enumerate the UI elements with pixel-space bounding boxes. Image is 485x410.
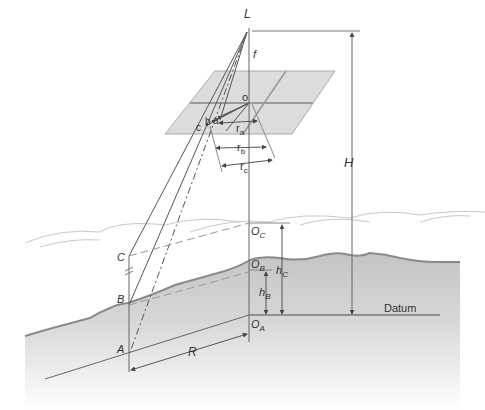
label-B: B bbox=[117, 293, 124, 305]
terrain-surface bbox=[25, 253, 460, 410]
label-a: a bbox=[213, 115, 219, 126]
label-rb: rb bbox=[237, 141, 246, 156]
label-c: c bbox=[196, 122, 201, 133]
label-L: L bbox=[244, 7, 251, 21]
label-datum: Datum bbox=[384, 302, 416, 314]
diagram-canvas: L f o b a c ra rb rc H C B A OC OB OA hB… bbox=[0, 0, 485, 410]
label-H: H bbox=[344, 155, 354, 170]
c-to-oc-dashed bbox=[129, 223, 249, 256]
relief-displacement-diagram: L f o b a c ra rb rc H C B A OC OB OA hB… bbox=[0, 0, 485, 410]
label-R: R bbox=[188, 345, 197, 359]
label-A: A bbox=[116, 343, 124, 355]
photo-plane bbox=[165, 71, 335, 134]
label-rc: rc bbox=[240, 160, 248, 175]
label-o: o bbox=[242, 91, 248, 103]
label-f: f bbox=[253, 48, 257, 60]
label-C: C bbox=[117, 251, 125, 263]
label-b: b bbox=[205, 116, 211, 127]
label-OC: OC bbox=[251, 225, 266, 240]
